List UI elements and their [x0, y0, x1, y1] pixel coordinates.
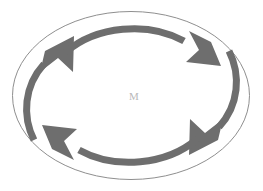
- arrow-bottom-right-tail: [219, 51, 236, 127]
- arrow-top-left-tail: [27, 64, 44, 140]
- cycle-diagram-canvas: M: [0, 0, 263, 191]
- arrow-top-right: [66, 29, 221, 66]
- cycle-diagram: M: [0, 0, 263, 191]
- arrow-bottom-left-tail: [79, 139, 197, 162]
- center-label: M: [129, 90, 139, 102]
- arrow-top-right-tail: [66, 29, 184, 52]
- arrow-bottom-left: [42, 125, 197, 162]
